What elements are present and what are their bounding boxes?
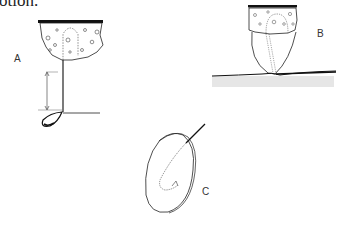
- panel-c-drawing: [146, 124, 205, 213]
- panel-label-c: C: [202, 186, 209, 197]
- panel-b-drawing: [212, 5, 336, 87]
- panel-label-a: A: [14, 53, 21, 64]
- figure-illustration: [0, 0, 344, 225]
- panel-label-b: B: [317, 28, 324, 39]
- panel-a-drawing: [38, 20, 103, 126]
